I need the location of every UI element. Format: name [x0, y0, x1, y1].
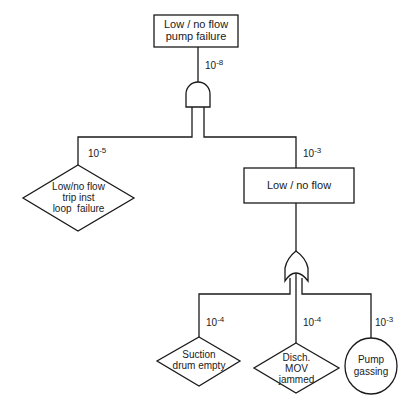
or-gate-right-leg [302, 278, 371, 338]
pump-gassing-probability: 10-3 [375, 317, 393, 329]
top-event-probability: 10-8 [205, 60, 223, 72]
disch-event-label: Disch. MOV jammed [254, 352, 339, 385]
top-event-label-line1: Low / no flow [154, 18, 238, 30]
suction-event-probability: 10-4 [206, 317, 224, 329]
pump-gassing-label: Pump gassing [345, 354, 397, 378]
suction-event-label: Suction drum empty [157, 349, 241, 371]
left-event-probability: 10-5 [88, 148, 106, 160]
left-event-label: Low/no flow trip inst loop failure [23, 181, 134, 214]
fault-tree-diagram: Low / no flow pump failure 10-8 10-5 Low… [0, 0, 420, 415]
and-gate-icon [186, 82, 210, 107]
top-event-label-line2: pump failure [154, 30, 238, 42]
and-gate-right-leg [204, 107, 296, 168]
intermediate-event-probability: 10-3 [303, 148, 321, 160]
top-event-label: Low / no flow pump failure [154, 18, 238, 42]
intermediate-event-label: Low / no flow [244, 179, 354, 191]
disch-event-probability: 10-4 [303, 317, 321, 329]
